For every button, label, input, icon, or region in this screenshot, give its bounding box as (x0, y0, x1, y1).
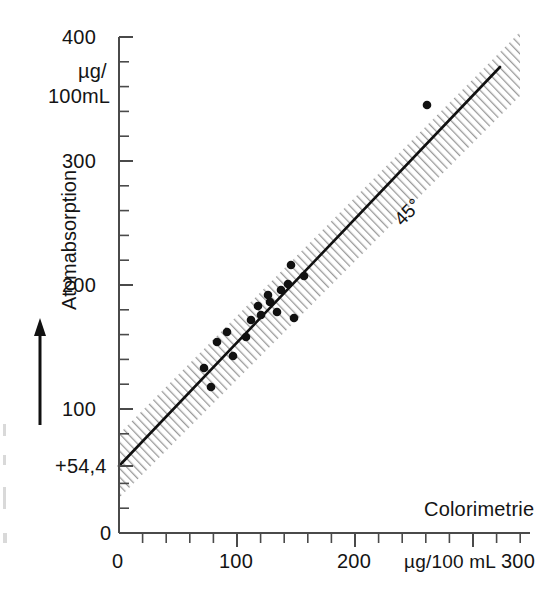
data-point (300, 272, 309, 281)
x-tick-label-200: 200 (337, 550, 371, 573)
y-axis-title: Atomabsorption (58, 170, 81, 310)
data-point (207, 383, 216, 392)
data-point (200, 364, 209, 373)
x-tick-label-300: 300 (501, 550, 535, 573)
hatched-confidence-band (119, 32, 520, 498)
y-axis-direction-arrow (34, 318, 46, 425)
data-point (229, 352, 238, 361)
data-point (273, 308, 282, 317)
data-point (290, 314, 299, 323)
y-intercept-label: +54,4 (55, 455, 107, 478)
y-unit-line1: µg/ (78, 60, 107, 83)
x-unit-label: µg/100 mL (404, 551, 496, 573)
x-axis-title: Colorimetrie (424, 498, 534, 521)
data-point (266, 298, 275, 307)
data-point (254, 302, 263, 311)
data-point (287, 261, 296, 270)
x-axis (119, 533, 530, 547)
y-tick-label-400: 400 (62, 26, 96, 49)
data-point (423, 101, 432, 110)
data-point (242, 333, 251, 342)
data-point (213, 338, 222, 347)
x-tick-label-100: 100 (219, 550, 253, 573)
data-point (277, 286, 286, 295)
x-tick-label-0: 0 (112, 550, 123, 573)
data-point (257, 311, 266, 320)
y-unit-line2: 100mL (48, 85, 110, 108)
data-point (247, 316, 256, 325)
y-tick-label-100: 100 (62, 398, 96, 421)
data-point (284, 280, 293, 289)
y-tick-label-0: 0 (100, 522, 111, 545)
chart-canvas: 400 300 200 100 +54,4 0 µg/ 100mL Atomab… (0, 0, 544, 591)
regression-line (119, 67, 500, 466)
data-point (223, 328, 232, 337)
